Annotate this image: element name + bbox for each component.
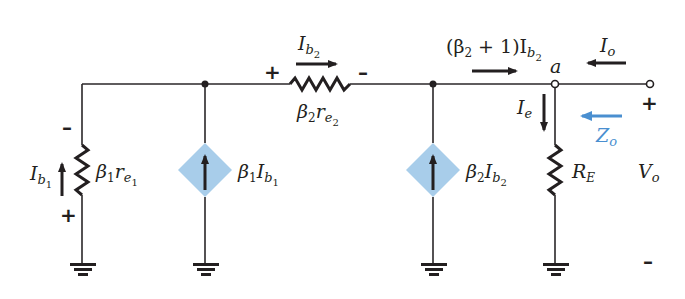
label-node-a: a [550,55,561,77]
label-zo: Zo [595,124,617,149]
resistor-beta1-re1 [76,145,88,195]
circuit-diagram: – + + – + – Ib1 β1re1 β1Ib1 Ib2 β2re2 β2… [0,0,685,299]
ground-icon [193,263,219,276]
label-vo: Vo [638,160,660,185]
ground-icon [70,263,96,276]
label-beta1-ib1: β1Ib1 [237,160,279,188]
terminal-a [552,81,559,88]
polarity-plus: + [264,60,281,84]
polarity-minus: – [62,115,72,139]
label-beta2-ib2: β2Ib2 [465,160,507,188]
label-emitter-current: (β2 + 1)Ib2 [446,35,542,63]
ground-icon [543,263,569,276]
label-beta2-re2: β2re2 [296,100,339,128]
output-minus: – [643,249,653,273]
label-ie: Ie [516,96,533,121]
output-plus: + [641,91,658,115]
resistor-RE [549,145,561,195]
ground-icon [421,263,447,276]
label-io: Io [599,34,616,59]
output-terminal [647,81,654,88]
label-ib1: Ib1 [29,162,52,190]
polarity-minus: – [358,60,368,84]
polarity-plus: + [60,203,77,227]
label-ib2: Ib2 [297,32,320,60]
label-beta1-re1: β1re1 [95,160,138,188]
label-re: RE [571,160,595,185]
resistor-beta2-re2 [290,78,350,90]
